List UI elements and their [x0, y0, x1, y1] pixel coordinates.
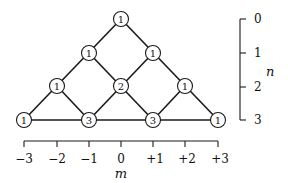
x-tick-label: +2	[178, 152, 196, 166]
node-n2-m0: 2	[114, 79, 129, 94]
node-n2-m2: 1	[178, 79, 193, 94]
svg-text:1: 1	[182, 81, 188, 92]
y-tick-label: 0	[254, 12, 262, 26]
y-axis: 0 1 2 3 n	[240, 12, 274, 127]
edges	[24, 19, 218, 120]
svg-text:1: 1	[54, 81, 60, 92]
node-n0-m0: 1	[114, 12, 129, 27]
x-tick-label: +1	[146, 152, 164, 166]
x-axis: −3 −2 −1 0 +1 +2 +3 m	[15, 141, 229, 181]
x-tick-label: −1	[80, 152, 98, 166]
svg-text:1: 1	[86, 48, 92, 59]
svg-text:1: 1	[215, 115, 221, 126]
node-n3-m-3: 1	[17, 113, 32, 128]
x-tick-label: 0	[117, 152, 125, 166]
node-n3-m3: 1	[211, 113, 226, 128]
svg-text:3: 3	[150, 115, 156, 126]
y-axis-title: n	[266, 64, 274, 79]
y-tick-label: 1	[254, 46, 262, 60]
svg-text:1: 1	[118, 14, 124, 25]
y-tick-label: 3	[254, 113, 262, 127]
node-n1-m1: 1	[146, 46, 161, 61]
x-tick-label: +3	[211, 152, 229, 166]
x-axis-title: m	[115, 166, 127, 181]
svg-text:3: 3	[86, 115, 92, 126]
svg-text:1: 1	[150, 48, 156, 59]
y-tick-label: 2	[254, 80, 262, 94]
x-tick-label: −3	[15, 152, 33, 166]
lattice-diagram: 1 1 1 1 2 1 1 3 3 1 −3 −2 −1 0 +1 +2 +3 …	[0, 0, 288, 183]
svg-text:2: 2	[118, 81, 124, 92]
nodes: 1 1 1 1 2 1 1 3 3 1	[17, 12, 226, 128]
svg-text:1: 1	[21, 115, 27, 126]
node-n2-m-2: 1	[50, 79, 65, 94]
node-n3-m-1: 3	[82, 113, 97, 128]
x-tick-label: −2	[48, 152, 66, 166]
node-n3-m1: 3	[146, 113, 161, 128]
node-n1-m-1: 1	[82, 46, 97, 61]
